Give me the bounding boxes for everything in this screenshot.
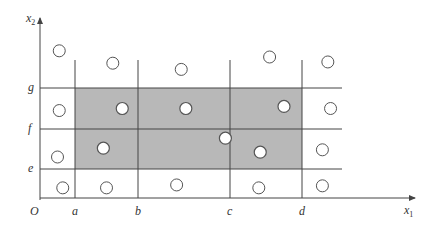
grid-partition-diagram: O x1 x2 abcdefg [0,0,435,229]
point-inside-1 [180,103,192,115]
point-inside-4 [219,132,231,144]
point-outside-4 [322,56,334,68]
point-outside-6 [325,103,337,115]
x-tick-label-d: d [299,204,306,218]
x-tick-label-a: a [72,204,78,218]
x-tick-label-b: b [135,204,141,218]
y-tick-label-f: f [28,121,33,135]
y-tick-label-g: g [28,80,34,94]
point-outside-10 [101,182,113,194]
point-outside-0 [53,45,65,57]
point-outside-5 [53,105,65,117]
point-inside-2 [278,100,290,112]
point-inside-0 [116,103,128,115]
grid-lines [40,60,342,198]
y-axis-label: x2 [25,11,35,27]
point-outside-12 [253,182,265,194]
y-tick-label-e: e [28,161,34,175]
origin-label: O [30,204,39,218]
point-outside-7 [52,151,64,163]
point-outside-13 [316,180,328,192]
point-outside-11 [171,179,183,191]
x-tick-label-c: c [227,204,233,218]
point-outside-9 [57,182,69,194]
point-outside-2 [175,63,187,75]
point-inside-3 [97,142,109,154]
x-axis-label: x1 [403,203,413,219]
point-inside-5 [254,146,266,158]
point-outside-1 [107,57,119,69]
point-outside-8 [316,144,328,156]
point-outside-3 [264,51,276,63]
